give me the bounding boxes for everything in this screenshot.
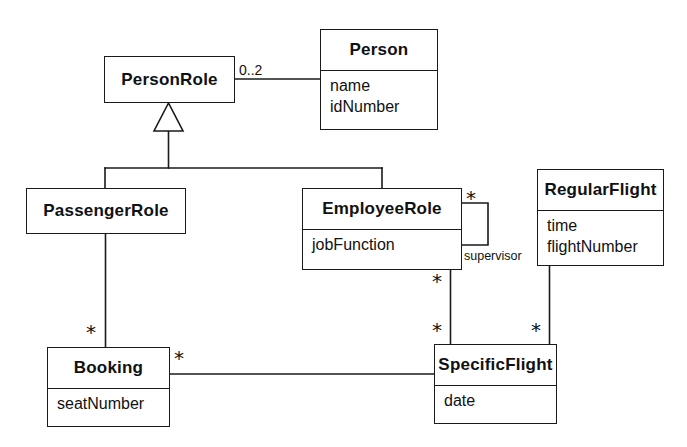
class-box-person-role[interactable]: PersonRole — [104, 56, 235, 103]
class-name-regular-flight: RegularFlight — [538, 170, 663, 210]
class-box-specific-flight[interactable]: SpecificFlight date — [434, 344, 557, 424]
class-attributes-employee-role: jobFunction — [303, 230, 461, 255]
class-attributes-regular-flight: time flightNumber — [538, 211, 663, 257]
attribute-item: time — [547, 215, 663, 236]
multiplicity-employeerole-to-specificflight-lower: * — [432, 320, 442, 340]
attribute-item: idNumber — [330, 96, 437, 117]
multiplicity-employeerole-supervisor-top: * — [466, 188, 476, 208]
class-box-person[interactable]: Person name idNumber — [320, 29, 438, 130]
class-box-regular-flight[interactable]: RegularFlight time flightNumber — [537, 169, 664, 266]
attribute-item: seatNumber — [57, 393, 169, 414]
class-box-booking[interactable]: Booking seatNumber — [47, 347, 170, 427]
generalization-triangle — [154, 103, 183, 131]
attribute-item: flightNumber — [547, 236, 663, 257]
class-box-employee-role[interactable]: EmployeeRole jobFunction — [302, 188, 462, 270]
multiplicity-regularflight-to-specificflight: * — [531, 320, 541, 340]
attribute-item: date — [444, 390, 556, 411]
class-attributes-booking: seatNumber — [48, 389, 169, 414]
class-attributes-specific-flight: date — [435, 386, 556, 411]
multiplicity-booking-to-specificflight: * — [174, 348, 184, 368]
class-name-employee-role: EmployeeRole — [303, 189, 461, 229]
multiplicity-passengerrole-to-booking: * — [86, 322, 96, 342]
class-name-person: Person — [321, 30, 437, 70]
multiplicity-personrole-to-person: 0..2 — [239, 63, 262, 77]
attribute-item: jobFunction — [312, 234, 461, 255]
class-name-passenger-role: PassengerRole — [27, 189, 185, 233]
class-name-booking: Booking — [48, 348, 169, 388]
class-box-passenger-role[interactable]: PassengerRole — [26, 188, 186, 234]
class-name-specific-flight: SpecificFlight — [435, 345, 556, 385]
multiplicity-employeerole-to-specificflight-upper: * — [432, 271, 442, 291]
attribute-item: name — [330, 75, 437, 96]
class-name-person-role: PersonRole — [105, 57, 234, 102]
role-label-supervisor: supervisor — [464, 250, 522, 263]
class-attributes-person: name idNumber — [321, 71, 437, 117]
uml-class-diagram: Person name idNumber PersonRole Passenge… — [0, 0, 687, 447]
